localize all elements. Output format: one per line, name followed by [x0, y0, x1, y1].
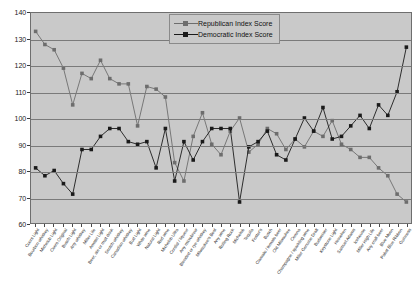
data-point — [173, 179, 177, 183]
data-point — [34, 30, 38, 34]
data-point — [108, 127, 112, 131]
data-point — [293, 137, 297, 141]
y-axis-tick-label: 130 — [15, 35, 26, 42]
data-point — [368, 127, 372, 131]
data-point — [256, 140, 260, 144]
series-layer — [31, 13, 411, 223]
data-point — [154, 166, 158, 170]
data-point — [117, 127, 121, 131]
data-point — [321, 135, 325, 139]
legend-item-republican: Republican Index Score — [174, 18, 273, 29]
data-point — [62, 182, 66, 186]
data-point — [349, 124, 353, 128]
legend-label-democratic: Democratic Index Score — [198, 31, 273, 38]
data-point — [99, 135, 103, 139]
data-point — [219, 153, 223, 157]
data-point — [358, 156, 362, 160]
gridline — [31, 66, 411, 67]
data-point — [127, 82, 131, 86]
data-point — [312, 129, 316, 133]
data-point — [201, 140, 205, 144]
data-point — [395, 192, 399, 196]
gridline — [31, 172, 411, 173]
data-point — [34, 166, 38, 170]
data-point — [145, 140, 149, 144]
legend-swatch-democratic — [174, 30, 198, 39]
data-point — [154, 87, 158, 91]
y-axis-tick-label: 110 — [15, 88, 26, 95]
data-point — [321, 106, 325, 110]
data-point — [368, 156, 372, 160]
data-point — [238, 200, 242, 204]
y-axis-tick-label: 80 — [18, 168, 26, 175]
y-axis-tick-label: 100 — [15, 115, 26, 122]
data-point — [377, 166, 381, 170]
data-point — [80, 72, 84, 76]
series-line — [36, 31, 407, 202]
data-point — [377, 103, 381, 107]
data-point — [284, 148, 288, 152]
data-point — [330, 137, 334, 141]
data-point — [275, 132, 279, 136]
y-axis-tick-label: 90 — [18, 141, 26, 148]
legend-label-republican: Republican Index Score — [198, 20, 272, 27]
data-point — [219, 127, 223, 131]
data-point — [136, 124, 140, 128]
data-point — [349, 148, 353, 152]
data-point — [340, 135, 344, 139]
data-point — [210, 127, 214, 131]
y-axis-tick-label: 70 — [18, 194, 26, 201]
chart-legend: Republican Index Score Democratic Index … — [169, 14, 280, 44]
data-point — [182, 140, 186, 144]
data-point — [191, 158, 195, 162]
data-point — [266, 129, 270, 133]
data-point — [89, 77, 93, 81]
data-point — [127, 140, 131, 144]
data-point — [99, 58, 103, 62]
data-point — [182, 179, 186, 183]
series-republican — [34, 30, 408, 204]
y-axis-tick-label: 140 — [15, 9, 26, 16]
y-axis: 60708090100110120130140 — [0, 0, 30, 226]
data-point — [201, 111, 205, 115]
data-point — [43, 174, 47, 178]
data-point — [191, 135, 195, 139]
data-point — [108, 77, 112, 81]
data-point — [164, 95, 168, 99]
data-point — [228, 127, 232, 131]
data-point — [405, 45, 409, 49]
y-axis-tick-label: 120 — [15, 62, 26, 69]
data-point — [275, 153, 279, 157]
gridline — [31, 93, 411, 94]
data-point — [117, 82, 121, 86]
data-point — [43, 43, 47, 47]
data-point — [71, 192, 75, 196]
legend-swatch-republican — [174, 19, 198, 28]
data-point — [71, 103, 75, 107]
data-point — [358, 114, 362, 118]
data-point — [284, 158, 288, 162]
y-axis-tick-label: 60 — [18, 221, 26, 228]
data-point — [145, 85, 149, 89]
data-point — [89, 148, 93, 152]
data-point — [386, 114, 390, 118]
data-point — [164, 127, 168, 131]
x-axis-labels: Coors LightBourbon whiskeyMichelob Light… — [30, 228, 412, 297]
data-point — [52, 48, 56, 52]
legend-item-democratic: Democratic Index Score — [174, 29, 273, 40]
data-point — [405, 200, 409, 204]
data-point — [80, 148, 84, 152]
chart-container: 60708090100110120130140 Coors LightBourb… — [0, 0, 418, 297]
data-point — [386, 174, 390, 178]
gridline — [31, 199, 411, 200]
series-democratic — [34, 45, 408, 203]
gridline — [31, 146, 411, 147]
gridline — [31, 119, 411, 120]
data-point — [173, 161, 177, 165]
